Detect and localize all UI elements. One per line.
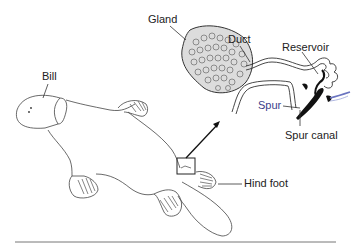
label-spur-canal: Spur canal <box>285 130 338 141</box>
eyes <box>28 107 32 113</box>
label-gland: Gland <box>148 14 177 25</box>
zoom-arrow <box>186 124 218 158</box>
tail-shape <box>178 182 232 236</box>
label-hind-foot: Hind foot <box>244 178 288 189</box>
duct <box>246 58 320 70</box>
label-spur: Spur <box>258 100 281 111</box>
label-reservoir: Reservoir <box>282 42 329 53</box>
platypus-diagram: Bill Gland Duct Reservoir Spur Spur cana… <box>0 0 352 248</box>
label-duct: Duct <box>228 34 251 45</box>
bill-shape <box>16 95 60 128</box>
platypus-body <box>16 95 231 236</box>
label-bill: Bill <box>42 71 57 82</box>
diagram-illustration <box>0 0 352 248</box>
reservoir <box>318 58 338 88</box>
